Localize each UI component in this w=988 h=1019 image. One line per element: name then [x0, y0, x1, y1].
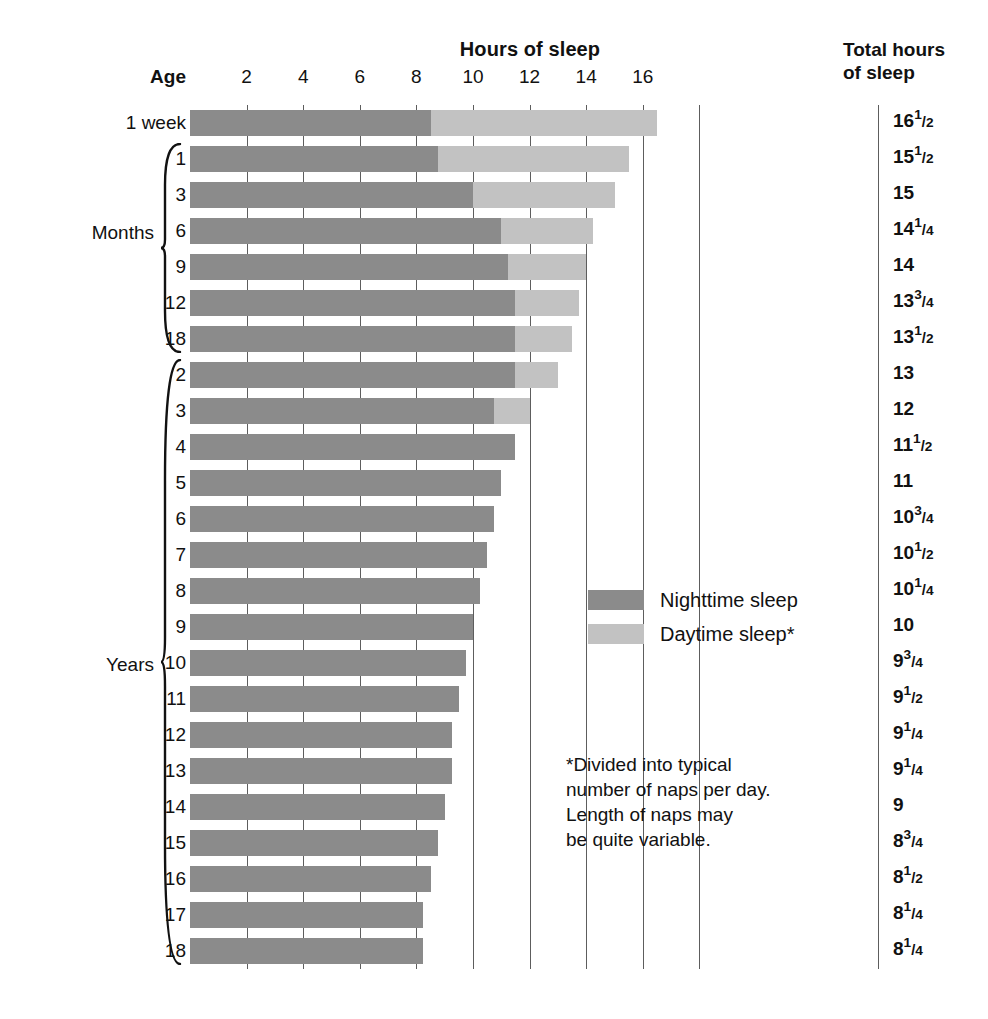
- bar-segment-nighttime: [190, 146, 438, 172]
- chart-row: 12133/4: [0, 285, 988, 321]
- row-total-hours: 133/4: [893, 290, 933, 312]
- row-total-hours: 10: [893, 614, 914, 636]
- years-brace: [160, 359, 182, 969]
- total-hours-header-line1: Total hours: [843, 38, 988, 61]
- legend-label-daytime: Daytime sleep*: [660, 623, 795, 646]
- chart-title-hours-of-sleep: Hours of sleep: [380, 38, 680, 61]
- row-total-hours: 141/4: [893, 218, 933, 240]
- bar-segment-daytime: [515, 326, 572, 352]
- stacked-bar: [190, 254, 586, 280]
- chart-row: 1151/2: [0, 141, 988, 177]
- row-total-hours: 111/2: [893, 434, 932, 456]
- footnote-line-1: *Divided into typical: [566, 752, 836, 777]
- chart-row: 1583/4: [0, 825, 988, 861]
- row-total-hours: 101/2: [893, 542, 933, 564]
- x-axis-tick-10: 10: [453, 66, 493, 88]
- legend-item-nighttime: Nighttime sleep: [588, 586, 798, 614]
- chart-row: 18131/2: [0, 321, 988, 357]
- bar-segment-daytime: [515, 362, 557, 388]
- row-total-hours: 131/2: [893, 326, 933, 348]
- chart-row: 315: [0, 177, 988, 213]
- row-total-hours: 91/4: [893, 758, 923, 780]
- row-total-hours: 9: [893, 794, 904, 816]
- bar-segment-daytime: [494, 398, 529, 424]
- legend-item-daytime: Daytime sleep*: [588, 620, 798, 648]
- x-axis-tick-16: 16: [623, 66, 663, 88]
- bar-segment-nighttime: [190, 830, 438, 856]
- bar-segment-nighttime: [190, 326, 515, 352]
- bar-segment-nighttime: [190, 434, 515, 460]
- stacked-bar: [190, 830, 438, 856]
- row-total-hours: 11: [893, 470, 913, 492]
- bar-segment-daytime: [438, 146, 629, 172]
- stacked-bar: [190, 146, 629, 172]
- chart-row: 312: [0, 393, 988, 429]
- stacked-bar: [190, 722, 452, 748]
- row-total-hours: 83/4: [893, 830, 923, 852]
- bar-segment-daytime: [501, 218, 593, 244]
- row-total-hours: 91/4: [893, 722, 923, 744]
- chart-row: 1781/4: [0, 897, 988, 933]
- bar-segment-nighttime: [190, 218, 501, 244]
- bar-segment-nighttime: [190, 866, 431, 892]
- bar-segment-nighttime: [190, 722, 452, 748]
- stacked-bar: [190, 506, 494, 532]
- chart-row: 910: [0, 609, 988, 645]
- stacked-bar: [190, 434, 515, 460]
- stacked-bar: [190, 614, 473, 640]
- stacked-bar: [190, 902, 423, 928]
- stacked-bar: [190, 398, 530, 424]
- row-total-hours: 91/2: [893, 686, 923, 708]
- bar-segment-nighttime: [190, 614, 473, 640]
- x-axis-tick-2: 2: [227, 66, 267, 88]
- row-total-hours: 103/4: [893, 506, 933, 528]
- months-brace: [160, 143, 182, 357]
- footnote-line-3: Length of naps may: [566, 802, 836, 827]
- bar-segment-nighttime: [190, 938, 423, 964]
- row-total-hours: 13: [893, 362, 914, 384]
- stacked-bar: [190, 758, 452, 784]
- x-axis-tick-6: 6: [340, 66, 380, 88]
- stacked-bar: [190, 470, 501, 496]
- row-total-hours: 14: [893, 254, 914, 276]
- stacked-bar: [190, 578, 480, 604]
- stacked-bar: [190, 110, 657, 136]
- legend: Nighttime sleep Daytime sleep*: [588, 586, 798, 654]
- stacked-bar: [190, 182, 615, 208]
- legend-swatch-daytime-icon: [588, 624, 644, 644]
- months-group-label: Months: [64, 222, 154, 244]
- row-total-hours: 151/2: [893, 146, 933, 168]
- years-group-label: Years: [64, 654, 154, 676]
- stacked-bar: [190, 542, 487, 568]
- bar-segment-daytime: [431, 110, 657, 136]
- row-total-hours: 101/4: [893, 578, 933, 600]
- bar-segment-nighttime: [190, 182, 473, 208]
- bar-segment-nighttime: [190, 758, 452, 784]
- stacked-bar: [190, 362, 558, 388]
- chart-row: 1681/2: [0, 861, 988, 897]
- row-total-hours: 161/2: [893, 110, 933, 132]
- row-age-label-1-week: 1 week: [60, 112, 186, 134]
- bar-segment-nighttime: [190, 542, 487, 568]
- row-total-hours: 81/2: [893, 866, 923, 888]
- bar-segment-nighttime: [190, 794, 445, 820]
- stacked-bar: [190, 686, 459, 712]
- chart-row: 1881/4: [0, 933, 988, 969]
- x-axis-tick-8: 8: [396, 66, 436, 88]
- row-total-hours: 12: [893, 398, 914, 420]
- row-total-hours: 93/4: [893, 650, 923, 672]
- chart-row: 1391/4: [0, 753, 988, 789]
- stacked-bar: [190, 218, 593, 244]
- chart-row: 7101/2: [0, 537, 988, 573]
- chart-row: 1 week161/2: [0, 105, 988, 141]
- footnote: *Divided into typical number of naps per…: [566, 752, 836, 852]
- stacked-bar: [190, 326, 572, 352]
- legend-label-nighttime: Nighttime sleep: [660, 589, 798, 612]
- age-column-header: Age: [120, 66, 186, 88]
- stacked-bar: [190, 866, 431, 892]
- stacked-bar: [190, 290, 579, 316]
- chart-row: 511: [0, 465, 988, 501]
- bar-segment-daytime: [515, 290, 579, 316]
- footnote-line-2: number of naps per day.: [566, 777, 836, 802]
- row-total-hours: 15: [893, 182, 914, 204]
